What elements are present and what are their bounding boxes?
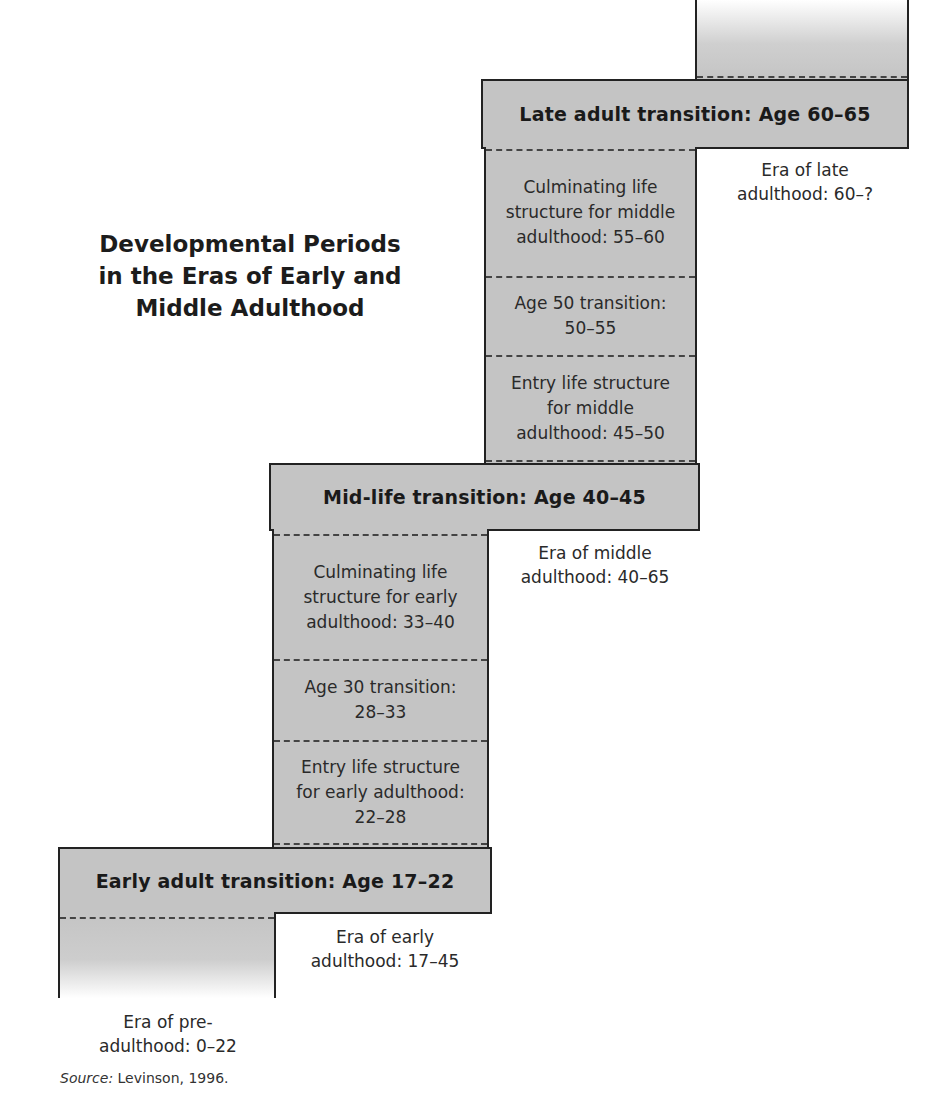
- source-text: Levinson, 1996.: [113, 1070, 228, 1086]
- cell-line: Entry life structure: [296, 755, 464, 780]
- era-line: adulthood: 60–?: [700, 182, 910, 206]
- age-30-transition-cell: Age 30 transition:28–33: [274, 660, 487, 740]
- cell-line: for early adulthood:: [296, 780, 464, 805]
- era-late-label: Era of late adulthood: 60–?: [700, 158, 910, 206]
- cell-line: for middle: [511, 396, 670, 421]
- early-adult-transition-label: Early adult transition: Age 17–22: [96, 870, 455, 892]
- era-middle-label: Era of middle adulthood: 40–65: [490, 541, 700, 589]
- late-adult-transition-label: Late adult transition: Age 60–65: [519, 103, 870, 125]
- era-line: Era of pre-: [68, 1010, 268, 1034]
- age-50-transition-cell: Age 50 transition:50–55: [486, 277, 695, 355]
- era-pre-label: Era of pre- adulthood: 0–22: [68, 1010, 268, 1058]
- cell-line: 28–33: [304, 700, 456, 725]
- mid-life-transition-label: Mid-life transition: Age 40–45: [323, 486, 646, 508]
- cell-line: Entry life structure: [511, 371, 670, 396]
- dashed-divider: [486, 460, 695, 462]
- dashed-divider: [274, 659, 487, 661]
- era-line: Era of middle: [490, 541, 700, 565]
- cell-line: adulthood: 55–60: [506, 225, 675, 250]
- diagram-title: Developmental Periods in the Eras of Ear…: [80, 228, 420, 324]
- source-label: Source:: [60, 1070, 113, 1086]
- title-line: Developmental Periods: [80, 228, 420, 260]
- dashed-divider: [486, 276, 695, 278]
- cell-line: adulthood: 33–40: [304, 610, 458, 635]
- dashed-divider: [274, 534, 487, 536]
- era-line: adulthood: 0–22: [68, 1034, 268, 1058]
- era-line: Era of early: [280, 925, 490, 949]
- title-line: Middle Adulthood: [80, 292, 420, 324]
- culminating-middle-cell: Culminating lifestructure for middleadul…: [486, 149, 695, 275]
- era-early-label: Era of early adulthood: 17–45: [280, 925, 490, 973]
- cell-line: 50–55: [514, 316, 666, 341]
- mid-life-transition-band: Mid-life transition: Age 40–45: [269, 463, 700, 531]
- late-adulthood-block: [695, 0, 909, 80]
- cell-line: Age 30 transition:: [304, 675, 456, 700]
- cell-line: Culminating life: [506, 175, 675, 200]
- dashed-divider: [274, 740, 487, 742]
- cell-line: structure for middle: [506, 200, 675, 225]
- cell-line: Age 50 transition:: [514, 291, 666, 316]
- dashed-divider: [274, 843, 487, 845]
- entry-early-cell: Entry life structurefor early adulthood:…: [274, 741, 487, 843]
- culminating-early-cell: Culminating lifestructure for earlyadult…: [274, 535, 487, 659]
- entry-middle-cell: Entry life structurefor middleadulthood:…: [486, 356, 695, 460]
- era-line: adulthood: 17–45: [280, 949, 490, 973]
- early-adult-transition-band: Early adult transition: Age 17–22: [58, 847, 492, 914]
- source-citation: Source: Levinson, 1996.: [60, 1070, 229, 1086]
- era-line: adulthood: 40–65: [490, 565, 700, 589]
- cell-line: adulthood: 45–50: [511, 421, 670, 446]
- dashed-divider: [697, 76, 907, 78]
- dashed-divider: [486, 149, 695, 151]
- cell-line: 22–28: [296, 805, 464, 830]
- era-line: Era of late: [700, 158, 910, 182]
- dashed-divider: [60, 917, 274, 919]
- cell-line: structure for early: [304, 585, 458, 610]
- dashed-divider: [486, 355, 695, 357]
- late-adult-transition-band: Late adult transition: Age 60–65: [481, 79, 909, 149]
- cell-line: Culminating life: [304, 560, 458, 585]
- early-adulthood-column: Culminating lifestructure for earlyadult…: [272, 529, 489, 849]
- pre-adulthood-block: [58, 912, 276, 998]
- title-line: in the Eras of Early and: [80, 260, 420, 292]
- middle-adulthood-column: Culminating lifestructure for middleadul…: [484, 147, 697, 465]
